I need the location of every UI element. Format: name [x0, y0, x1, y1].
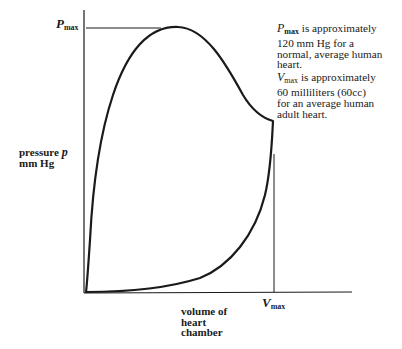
x-axis-label-line1: volume of — [181, 306, 227, 317]
vmax-symbol: V — [262, 295, 271, 310]
x-axis-label: volume of heart chamber — [181, 306, 227, 338]
y-axis-label: pressure p mm Hg — [19, 147, 68, 168]
pmax-axis-label: Pmax — [56, 19, 79, 34]
pmax-symbol: P — [56, 16, 64, 31]
vmax-subscript: max — [271, 302, 286, 311]
pmax-subscript: max — [64, 23, 79, 32]
vmax-note-subscript: max — [284, 76, 298, 85]
pressure-symbol: p — [62, 145, 68, 159]
x-axis-label-line3: chamber — [181, 327, 227, 338]
vmax-note: Vmax is approximately 60 milliliters (60… — [277, 72, 402, 119]
pmax-note-subscript: max — [284, 27, 299, 36]
y-axis-label-line1: pressure p — [19, 147, 68, 158]
pressure-volume-loop — [86, 27, 273, 292]
y-axis-label-line2: mm Hg — [19, 158, 68, 169]
x-axis — [84, 292, 352, 293]
pmax-note: Pmax is approximately 120 mm Hg for a no… — [277, 23, 402, 70]
annotation-notes: Pmax is approximately 120 mm Hg for a no… — [277, 23, 402, 121]
vmax-axis-label: Vmax — [262, 298, 285, 313]
